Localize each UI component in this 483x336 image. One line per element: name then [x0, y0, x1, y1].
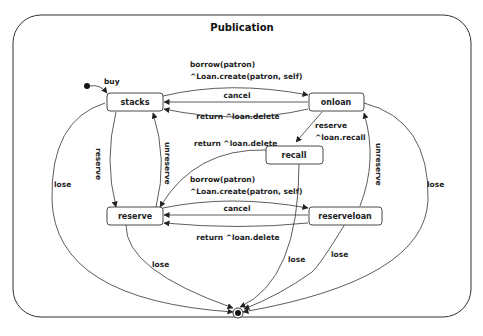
transition-label-borrow: borrow(patron)	[190, 60, 255, 69]
transition-label-borrow-2: borrow(patron)	[190, 175, 255, 184]
state-reserveloan[interactable]: reserveloan	[309, 207, 382, 225]
svg-text:stacks: stacks	[121, 98, 150, 107]
transition-label-stacks-reserve: reserve	[94, 148, 103, 180]
transition-label-loan-create: ^Loan.create(patron, self)	[190, 72, 302, 81]
final-state-dot	[235, 310, 241, 316]
state-onloan[interactable]: onloan	[309, 93, 364, 111]
svg-text:onloan: onloan	[321, 98, 352, 107]
transition-label-return-2: return ^loan.delete	[196, 233, 279, 242]
diagram-title: Publication	[210, 22, 273, 33]
transition-label-recall-return: return ^loan.delete	[194, 139, 277, 148]
transition-label-lose-reserveloan: lose	[331, 250, 348, 259]
transition-label-cancel-2: cancel	[224, 204, 251, 213]
initial-state	[84, 83, 90, 89]
transition-label-return: return ^loan.delete	[196, 112, 279, 121]
state-diagram: Publication buy borrow(patron) ^Loan.cre…	[0, 0, 483, 336]
transition-label-reserve-recall: reserve	[315, 121, 347, 130]
svg-text:reserveloan: reserveloan	[318, 212, 372, 221]
transition-label-lose-onloan: lose	[427, 180, 444, 189]
transition-label-unreserve-left: unreserve	[163, 142, 172, 185]
state-stacks[interactable]: stacks	[107, 93, 163, 111]
transition-label-loan-create-2: ^Loan.create(patron, self)	[190, 187, 302, 196]
transition-label-lose-reserve: lose	[152, 260, 169, 269]
transition-label-loan-recall: ^loan.recall	[315, 133, 366, 142]
transition-label-lose-stacks: lose	[54, 180, 71, 189]
transition-label-buy: buy	[104, 77, 120, 86]
state-reserve[interactable]: reserve	[107, 207, 163, 225]
transition-label-lose-recall: lose	[288, 255, 305, 264]
svg-text:recall: recall	[282, 151, 307, 160]
state-recall[interactable]: recall	[266, 146, 323, 164]
svg-text:reserve: reserve	[118, 212, 153, 221]
transition-label-cancel: cancel	[224, 91, 251, 100]
transition-label-unreserve-right: unreserve	[374, 143, 383, 186]
